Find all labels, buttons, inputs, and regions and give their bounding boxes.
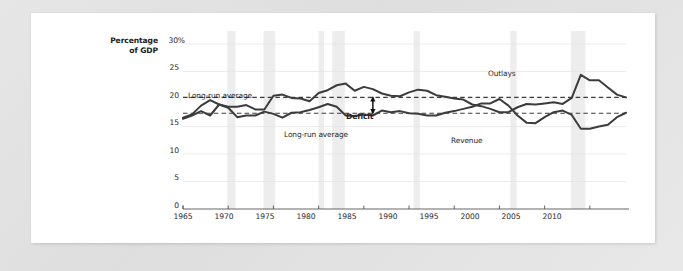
outlays-label: Outlays [488, 69, 516, 78]
y-tick-label-5: 5 [155, 173, 179, 182]
x-tick-label-1965: 1965 [166, 212, 200, 221]
x-tick-label-1995: 1995 [412, 212, 446, 221]
recession-band [227, 31, 235, 209]
recession-band [332, 31, 345, 209]
screenshot-root: Percentage of GDP 30% 25 20 15 10 5 0 19… [0, 0, 683, 271]
y-axis-title: Percentage of GDP [95, 36, 158, 55]
revenue-label: Revenue [451, 136, 483, 145]
recession-band [510, 31, 516, 209]
y-axis-title-line2: of GDP [129, 46, 158, 55]
y-tick-label-0: 0 [155, 201, 179, 210]
outlays-average-label: Long-run average [188, 91, 252, 100]
x-tick-label-1985: 1985 [330, 212, 364, 221]
x-tick-label-2010: 2010 [535, 212, 569, 221]
revenue-average-label: Long-run average [284, 130, 348, 139]
chart-figure: Percentage of GDP 30% 25 20 15 10 5 0 19… [31, 13, 655, 243]
recession-band [319, 31, 324, 209]
x-tick-label-1970: 1970 [207, 212, 241, 221]
recession-band [414, 31, 420, 209]
y-axis-title-line1: Percentage [110, 36, 158, 45]
y-tick-label-25: 25 [155, 63, 179, 72]
x-tick-label-2000: 2000 [453, 212, 487, 221]
recession-band [263, 31, 275, 209]
printed-page: Percentage of GDP 30% 25 20 15 10 5 0 19… [31, 13, 655, 243]
y-tick-label-15: 15 [155, 118, 179, 127]
recession-band [571, 31, 585, 209]
y-tick-label-10: 10 [155, 146, 179, 155]
x-tick-label-2005: 2005 [494, 212, 528, 221]
y-tick-label-30: 30% [155, 36, 185, 45]
x-tick-label-1980: 1980 [289, 212, 323, 221]
y-tick-label-20: 20 [155, 91, 179, 100]
deficit-label: Deficit [346, 112, 373, 121]
x-tick-label-1975: 1975 [248, 212, 282, 221]
x-tick-label-1990: 1990 [371, 212, 405, 221]
